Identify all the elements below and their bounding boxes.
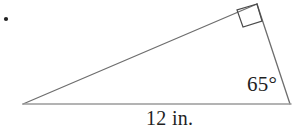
geometry-figure: 65° 12 in. bbox=[0, 0, 294, 132]
base-length-label: 12 in. bbox=[146, 108, 193, 128]
angle-measure-label: 65° bbox=[247, 74, 277, 95]
bullet-point-icon bbox=[4, 17, 8, 21]
triangle-hypotenuse-side bbox=[23, 4, 257, 104]
